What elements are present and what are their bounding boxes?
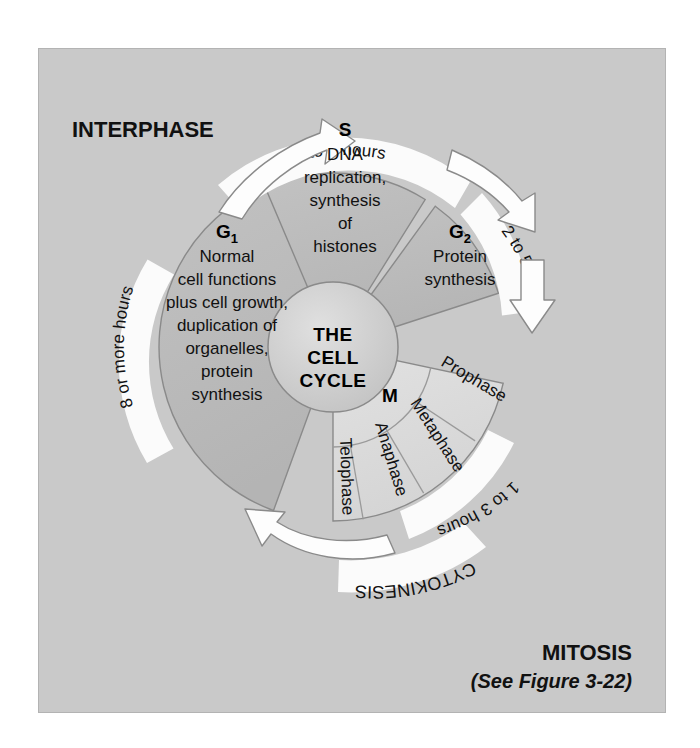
g1-line-6: synthesis <box>192 385 263 404</box>
g2-line-1: synthesis <box>425 270 496 289</box>
s-line-4: histones <box>313 237 376 256</box>
g1-line-4: organelles, <box>185 339 268 358</box>
g1-line-5: protein <box>201 362 253 381</box>
hub-line-3: CYCLE <box>300 370 367 391</box>
s-line-0: DNA <box>327 145 364 164</box>
g1-line-2: plus cell growth, <box>166 293 288 312</box>
s-line-2: synthesis <box>310 191 381 210</box>
hub-line-1: THE <box>313 324 353 345</box>
cell-cycle-diagram: THE CELL CYCLE 8 or more hours 6 to 8 ho… <box>0 0 700 748</box>
g1-line-1: cell functions <box>178 270 276 289</box>
m-letter: M <box>382 385 398 406</box>
g2-line-0: Protein <box>433 247 487 266</box>
g1-line-0: Normal <box>200 247 255 266</box>
interphase-heading: INTERPHASE <box>72 117 214 142</box>
figure-root: THE CELL CYCLE 8 or more hours 6 to 8 ho… <box>0 0 700 748</box>
s-line-1: replication, <box>304 168 386 187</box>
s-line-3: of <box>338 214 352 233</box>
hub-line-2: CELL <box>307 347 359 368</box>
g1-line-3: duplication of <box>177 316 277 335</box>
s-letter: S <box>339 119 352 140</box>
mitosis-heading: MITOSIS <box>542 640 632 665</box>
subphase-telophase[interactable]: Telophase <box>336 437 358 515</box>
mitosis-figure-note: (See Figure 3-22) <box>471 670 633 692</box>
